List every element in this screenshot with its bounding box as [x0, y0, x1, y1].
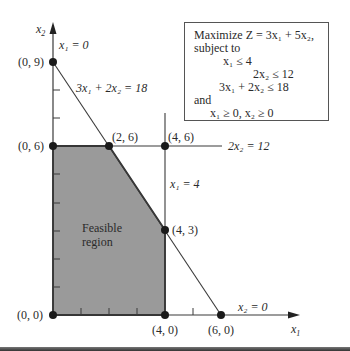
point-0-9 [49, 58, 57, 66]
x2-axis-arrow-icon [50, 22, 57, 34]
label-2x2-12: 2x₂ = 12 [228, 139, 270, 153]
x1-axis-label: x1 [290, 322, 300, 338]
x1-axis-arrow-icon [288, 312, 300, 319]
point-0-0 [49, 311, 57, 319]
label-point-0-9: (0, 9) [18, 55, 44, 69]
label-point-2-6: (2, 6) [112, 130, 138, 144]
point-0-6 [49, 142, 57, 150]
label-point-4-6: (4, 6) [168, 130, 194, 144]
label-3x1-2x2-18: 3x₁ + 2x₂ = 18 [75, 81, 147, 95]
bottom-rule [0, 347, 350, 351]
point-4-0 [161, 311, 169, 319]
point-4-3 [161, 226, 169, 234]
constraint-3: 3x₁ + 2x₂ ≤ 18 [219, 81, 289, 94]
label-x2-eq-0: x₂ = 0 [237, 300, 268, 314]
region-label-line1: Feasible [82, 221, 122, 235]
label-point-6-0: (6, 0) [208, 323, 234, 337]
label-x1-eq-4: x₁ = 4 [169, 177, 200, 191]
label-point-4-0: (4, 0) [152, 323, 178, 337]
label-x1-eq-0: x₁ = 0 [58, 38, 89, 52]
region-label-line2: region [82, 235, 113, 249]
objective-box: Maximize Z = 3x₁ + 5x₂, subject to x₁ ≤ … [184, 22, 329, 121]
label-point-4-3: (4, 3) [172, 223, 198, 237]
label-point-0-0: (0, 0) [17, 308, 43, 322]
nonnegativity: x₁ ≥ 0, x₂ ≥ 0 [210, 107, 274, 120]
and-label: and [194, 94, 211, 107]
point-6-0 [217, 311, 225, 319]
label-point-0-6: (0, 6) [18, 139, 44, 153]
x2-axis-label: x2 [35, 22, 45, 38]
constraint-1: x₁ ≤ 4 [223, 55, 252, 68]
